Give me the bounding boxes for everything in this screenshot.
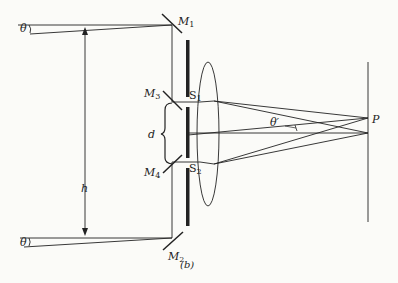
mirror-m4 — [163, 155, 182, 173]
h-label: h — [81, 182, 88, 195]
d-brace — [161, 103, 172, 164]
m1-label: M1 — [177, 15, 194, 29]
s1-label: S1 — [189, 89, 202, 103]
theta-top-label: θ — [20, 22, 27, 35]
bottom-tilted-ray — [24, 238, 172, 247]
m4-label: M4 — [143, 166, 160, 180]
mirror-m2 — [163, 232, 183, 250]
slit-screen-middle — [186, 107, 190, 158]
theta-bottom-label: θ — [20, 236, 27, 249]
stellar-interferometer-diagram: θ θ h d M1 M2 M3 M4 S1 S2 θ′ P (b) — [0, 0, 398, 283]
theta-prime-label: θ′ — [270, 116, 280, 129]
slit-screen-bottom — [186, 168, 190, 226]
p-label: P — [371, 113, 380, 126]
top-tilted-ray — [30, 25, 172, 34]
figure-caption: (b) — [180, 259, 194, 270]
m3-label: M3 — [143, 87, 160, 101]
d-label: d — [148, 128, 155, 141]
s2-label: S2 — [189, 162, 202, 176]
